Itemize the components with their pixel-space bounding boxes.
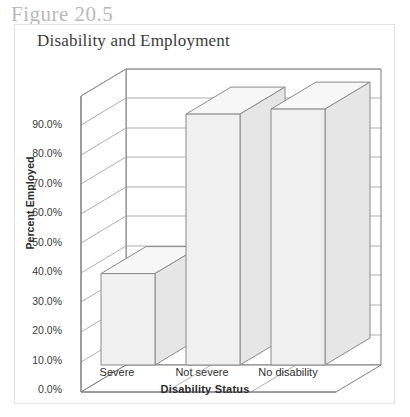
bar-severe-front [101,274,155,365]
plot-area [15,25,396,405]
bar-not-severe-front [186,114,240,365]
figure-container: Figure 20.5 Disability and Employment 90… [0,0,410,417]
x-axis-title: Disability Status [0,383,410,395]
chart-panel: Disability and Employment 90.0% 80.0% 70… [14,24,395,404]
bar-no-disability-front [271,109,325,365]
x-tick-label-no-disability: No disability [233,366,343,378]
bar-no-disability [271,82,370,365]
bar-severe [101,247,200,365]
bar-not-severe [186,87,285,365]
bar-no-disability-side [325,82,370,365]
